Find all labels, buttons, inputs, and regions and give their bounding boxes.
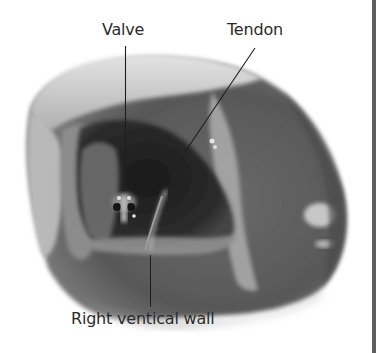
label-valve: Valve [102,20,144,39]
label-tendon: Tendon [227,20,283,39]
label-right-ventricle-wall: Right ventical wall [71,309,215,328]
labeled-heart-figure: Valve Tendon Right ventical wall [0,0,376,353]
frame-border [372,0,376,353]
heart-photograph [0,0,376,353]
